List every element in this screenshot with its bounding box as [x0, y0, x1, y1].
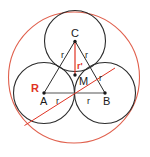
label-centroid-M: M: [79, 76, 88, 87]
label-side-r-lower-right: r: [99, 74, 102, 83]
triangle-side-AC: [44, 41, 75, 93]
label-side-r-upper-left: r: [61, 51, 64, 60]
geometry-figure: C A B M r r r r r R r': [0, 0, 150, 157]
centroid-dot-M: [73, 73, 76, 76]
vertex-dot-C: [73, 40, 76, 43]
label-vertex-A: A: [40, 96, 47, 107]
label-vertex-B: B: [103, 96, 110, 107]
label-side-r-base-left: r: [56, 97, 59, 106]
label-outer-radius-R: R: [31, 83, 39, 94]
label-side-r-upper-right: r: [85, 51, 88, 60]
label-side-r-base-right: r: [87, 97, 90, 106]
geometry-canvas: [0, 0, 150, 157]
label-inradius-r-prime: r': [77, 62, 83, 71]
label-vertex-C: C: [71, 28, 79, 39]
